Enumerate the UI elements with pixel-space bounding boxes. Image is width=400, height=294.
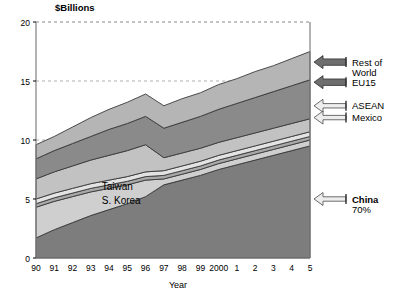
x-tick-label: 4: [289, 263, 294, 273]
y-tick-label: 0: [25, 254, 30, 264]
x-tick-label: 90: [31, 263, 41, 273]
x-tick-label: 92: [68, 263, 78, 273]
x-tick-label: 94: [104, 263, 114, 273]
x-tick-label: 2: [253, 263, 258, 273]
callout-label: ASEAN: [352, 100, 384, 111]
x-tick-label: 3: [271, 263, 276, 273]
callout-label: Mexico: [352, 112, 382, 123]
x-tick-label: 98: [177, 263, 187, 273]
stacked-area-chart: 05101520 90919293949596979899200012345 T…: [0, 0, 400, 294]
y-tick-label: 5: [25, 195, 30, 205]
y-tick-label: 15: [21, 77, 31, 87]
y-tick-label: 10: [21, 136, 31, 146]
callout-label: EU15: [352, 77, 376, 88]
inline-label-taiwan: Taiwan: [102, 181, 133, 192]
y-axis-unit-title: $Billions: [55, 2, 95, 13]
x-tick-label: 97: [159, 263, 169, 273]
inline-label-s-korea: S. Korea: [102, 195, 141, 206]
callout-label: China: [352, 194, 379, 205]
x-tick-label: 95: [123, 263, 133, 273]
x-tick-label: 91: [50, 263, 60, 273]
x-tick-label: 1: [235, 263, 240, 273]
x-tick-label: 5: [308, 263, 313, 273]
y-tick-label: 20: [21, 18, 31, 28]
callout-sublabel: 70%: [352, 204, 372, 215]
callout-label: Rest of: [352, 57, 382, 68]
x-tick-label: 99: [196, 263, 206, 273]
x-tick-label: 2000: [209, 263, 228, 273]
x-tick-label: 93: [86, 263, 96, 273]
x-tick-label: 96: [141, 263, 151, 273]
chart-canvas: 05101520 90919293949596979899200012345 T…: [0, 0, 400, 294]
x-axis-title: Year: [169, 280, 187, 290]
